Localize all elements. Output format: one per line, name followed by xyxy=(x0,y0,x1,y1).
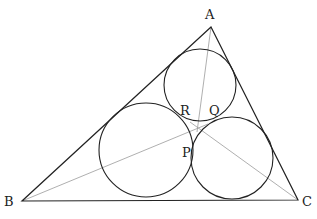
cevian-b xyxy=(22,124,208,201)
right-circle xyxy=(191,117,273,199)
label-a: A xyxy=(204,7,215,22)
malfatti-diagram: A B C R Q P xyxy=(0,0,317,219)
label-p: P xyxy=(182,145,191,160)
triangle-abc xyxy=(22,27,298,201)
label-b: B xyxy=(4,194,14,209)
label-q: Q xyxy=(209,103,220,118)
label-c: C xyxy=(302,194,312,209)
label-r: R xyxy=(180,103,191,118)
cevian-c xyxy=(190,122,298,200)
